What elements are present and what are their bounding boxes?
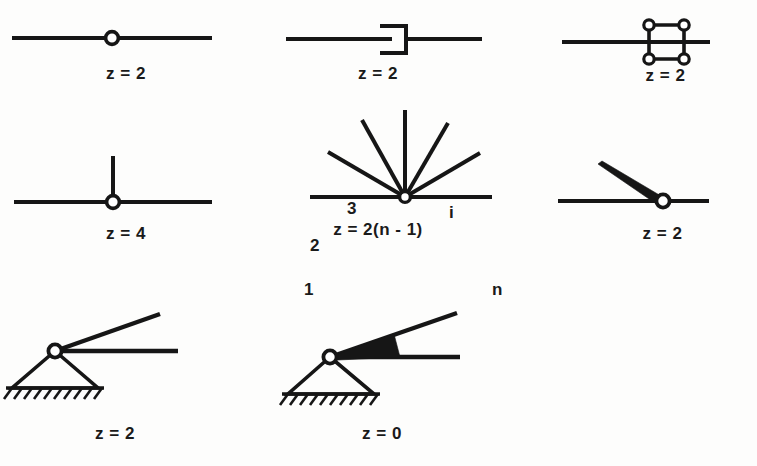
constraint-label: z = 0 bbox=[232, 424, 532, 444]
diagram-cell-n-ary-joint-hub: 1 2 3 i n z = 2(n - 1) bbox=[252, 96, 504, 248]
diagram-cell-binary-revolute-joint: z = 2 bbox=[0, 8, 252, 94]
ray-label-3: 3 bbox=[347, 200, 356, 217]
diagram-cell-tapered-link-joint: z = 2 bbox=[504, 140, 757, 250]
ray-label-1: 1 bbox=[304, 281, 313, 298]
constraint-label: z = 2(n - 1) bbox=[252, 220, 504, 240]
constraint-label: z = 2 bbox=[0, 64, 252, 84]
diagram-cell-ternary-tee-joint: z = 4 bbox=[0, 140, 252, 250]
ground-rigid-joint-icon bbox=[262, 300, 562, 410]
multi-ray-joint-icon bbox=[252, 96, 504, 208]
ground-pivot-icon bbox=[0, 300, 300, 410]
ray-label-n: n bbox=[492, 281, 502, 298]
revolute-joint-icon bbox=[0, 8, 252, 68]
joint-constraint-figure: z = 2 z = 2 z = 2 bbox=[0, 0, 757, 466]
ray-label-i: i bbox=[449, 204, 454, 221]
constraint-label: z = 2 bbox=[539, 66, 757, 86]
constraint-label: z = 2 bbox=[252, 64, 504, 84]
diagram-cell-grounded-rigid-joint: z = 0 bbox=[262, 300, 562, 460]
diagram-cell-parallelogram-loop: z = 2 bbox=[504, 8, 757, 94]
parallelogram-loop-icon bbox=[504, 8, 757, 70]
diagram-cell-prismatic-slider-joint: z = 2 bbox=[252, 8, 504, 94]
tee-joint-icon bbox=[0, 140, 252, 220]
constraint-label: z = 4 bbox=[0, 224, 252, 244]
constraint-label: z = 2 bbox=[536, 224, 757, 244]
tapered-link-joint-icon bbox=[504, 140, 757, 220]
constraint-label: z = 2 bbox=[0, 424, 265, 444]
prismatic-joint-icon bbox=[252, 8, 504, 68]
